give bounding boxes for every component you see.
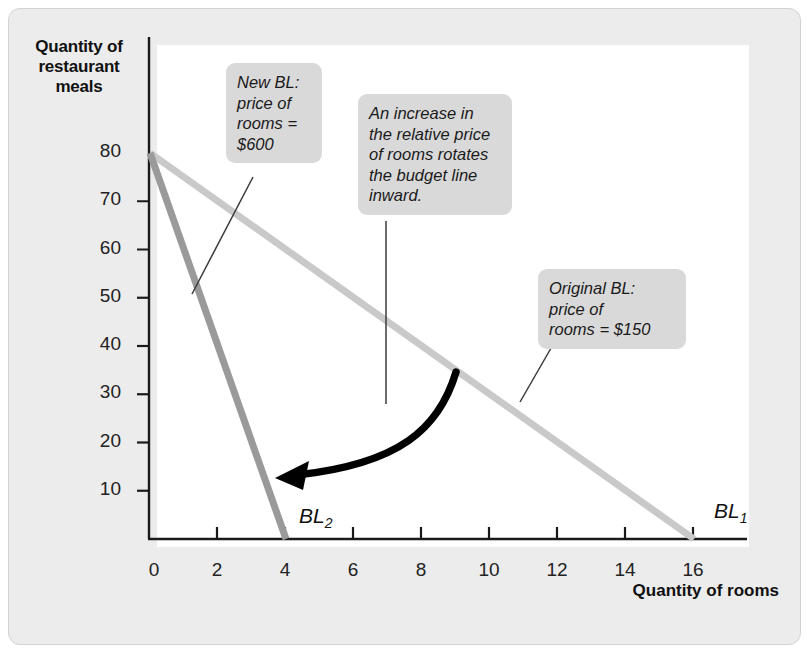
callout-original-bl-line-2: price of [549,299,675,320]
series-label-bl2: BL2 [299,504,332,531]
series-label-bl1-base: BL [714,499,740,522]
callout-new-bl-line-2: price of [237,93,311,114]
series-label-bl2-sub: 2 [325,515,333,531]
callout-new-bl-line-3: rooms = [237,113,311,134]
callout-original-bl: Original BL: price of rooms = $150 [538,269,686,349]
callout-rotate: An increase in the relative price of roo… [358,94,512,215]
callout-rotate-line-4: the budget line [369,165,501,186]
series-label-bl2-base: BL [299,504,325,527]
callout-new-bl-line-4: $600 [237,134,311,155]
callout-rotate-line-2: the relative price [369,124,501,145]
budget-line-bl2 [150,153,286,539]
callout-original-bl-line-3: rooms = $150 [549,319,675,340]
series-label-bl1-sub: 1 [740,510,748,526]
y-tick-marks [137,201,149,491]
rotation-arrow [275,372,456,490]
series-label-bl1: BL1 [714,499,747,526]
callout-rotate-line-1: An increase in [369,103,501,124]
callout-rotate-line-5: inward. [369,185,501,206]
figure-panel: Quantity of restaurant meals Quantity of… [8,8,801,645]
callout-rotate-line-3: of rooms rotates [369,144,501,165]
callout-new-bl: New BL: price of rooms = $600 [226,63,322,163]
callout-new-bl-line-1: New BL: [237,72,311,93]
leader-line-new-bl [192,177,253,294]
callout-original-bl-line-1: Original BL: [549,278,675,299]
